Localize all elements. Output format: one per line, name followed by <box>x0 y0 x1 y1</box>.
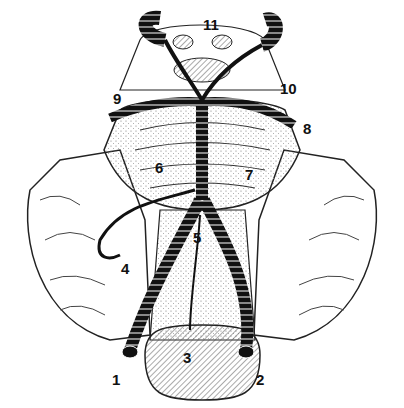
label-2: 2 <box>256 372 264 387</box>
label-6: 6 <box>155 160 163 175</box>
right-carotid-coil <box>262 19 276 45</box>
label-9: 9 <box>113 91 121 106</box>
label-7: 7 <box>245 167 253 182</box>
label-5: 5 <box>193 230 201 245</box>
label-11: 11 <box>203 17 219 32</box>
label-8: 8 <box>303 121 311 136</box>
label-10: 10 <box>280 81 297 96</box>
figure: 1 2 3 4 5 6 7 8 9 10 11 <box>0 0 404 408</box>
label-1: 1 <box>112 372 120 387</box>
brainstem-artery-illustration <box>0 0 404 408</box>
label-4: 4 <box>121 261 129 276</box>
label-3: 3 <box>183 350 191 365</box>
